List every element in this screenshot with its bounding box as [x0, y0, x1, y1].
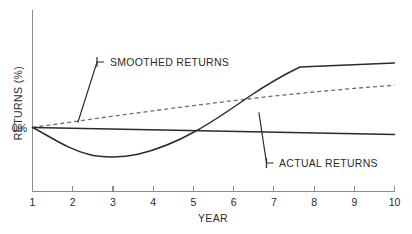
- x-tick-label: 8: [311, 196, 317, 208]
- x-tick-label: 6: [231, 196, 237, 208]
- returns-chart: RETURNS (%) 0% 1 2 3 4 5 6 7 8 9 10 YEAR…: [0, 0, 412, 234]
- x-axis-ticks: [33, 186, 395, 191]
- x-tick-label: 1: [30, 196, 36, 208]
- x-tick-label: 2: [70, 196, 76, 208]
- x-tick-label: 7: [271, 196, 277, 208]
- annotation-actual-returns: ACTUAL RETURNS: [279, 157, 378, 169]
- x-tick-label: 9: [351, 196, 357, 208]
- x-tick-label: 3: [110, 196, 116, 208]
- series-baseline: [33, 128, 395, 135]
- leader-line-smoothed: [78, 62, 104, 122]
- annotation-smoothed-returns: SMOOTHED RETURNS: [110, 56, 229, 68]
- x-axis-tick-labels: 1 2 3 4 5 6 7 8 9 10: [30, 196, 401, 208]
- x-axis-title: YEAR: [198, 212, 228, 224]
- leader-line-actual: [259, 113, 273, 163]
- x-tick-label: 5: [190, 196, 196, 208]
- chart-canvas: RETURNS (%) 0% 1 2 3 4 5 6 7 8 9 10 YEAR…: [0, 0, 412, 234]
- y-axis-zero-label: 0%: [12, 122, 27, 134]
- x-tick-label: 4: [150, 196, 156, 208]
- series-actual-returns: [33, 63, 395, 157]
- x-tick-label: 10: [389, 196, 401, 208]
